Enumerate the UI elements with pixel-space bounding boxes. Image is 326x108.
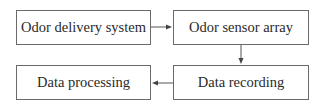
- connector-layer: [0, 0, 326, 108]
- arrow-right-icon: [151, 25, 172, 30]
- arrow-left-icon: [152, 81, 173, 86]
- arrow-down-icon: [239, 45, 244, 64]
